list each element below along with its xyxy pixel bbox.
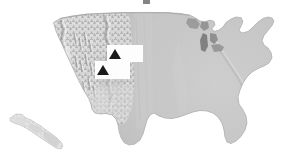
contiguous-us-landmass bbox=[0, 0, 296, 168]
triangle-up-icon bbox=[109, 49, 121, 59]
figure-container bbox=[0, 0, 296, 168]
site-marker-north[interactable] bbox=[107, 45, 143, 62]
site-marker-south[interactable] bbox=[95, 61, 130, 79]
triangle-up-icon bbox=[97, 65, 109, 75]
us-relief-map bbox=[0, 0, 296, 168]
top-edge-artifact bbox=[143, 0, 150, 4]
hawaii-inset bbox=[5, 110, 70, 155]
